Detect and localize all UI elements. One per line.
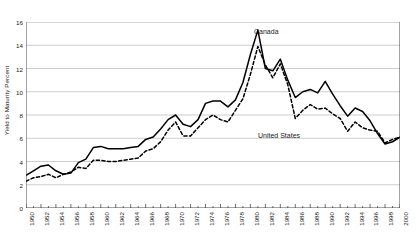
series-lines — [26, 30, 400, 181]
y-axis-ticklabel: 4 — [20, 158, 23, 165]
x-axis-ticklabel: 1950 — [28, 212, 35, 226]
y-axis-title-text: Yield to Maturity Percent — [4, 65, 11, 135]
x-axis-ticklabel: 1982 — [268, 212, 275, 226]
y-axis-ticklabel: 2 — [20, 181, 23, 188]
x-axis-ticklabel: 1988 — [313, 212, 320, 226]
x-axis-ticklabel: 1962 — [118, 212, 125, 226]
chart-container: Yield to Maturity Percent 0246810121416 … — [0, 0, 419, 240]
x-axis-ticklabel: 1972 — [193, 212, 200, 226]
y-axis-ticklabel: 12 — [16, 65, 23, 72]
x-axis-ticklabel: 1964 — [133, 212, 140, 226]
x-axis-ticklabel: 1986 — [298, 212, 305, 226]
y-axis-title: Yield to Maturity Percent — [0, 0, 14, 200]
x-axis-ticklabel: 1990 — [328, 212, 335, 226]
x-axis-ticklabel: 1960 — [103, 212, 110, 226]
plot-area: 0246810121416 19501952195419561958196019… — [26, 22, 400, 208]
y-axis-ticklabel: 8 — [20, 112, 23, 119]
x-axis-ticklabel: 1992 — [343, 212, 350, 226]
y-axis-ticklabel: 10 — [16, 88, 23, 95]
x-axis-ticklabel: 1998 — [387, 212, 394, 226]
x-axis-ticklabel: 1996 — [372, 212, 379, 226]
x-axis-ticklabel: 1968 — [163, 212, 170, 226]
x-axis-ticklabel: 1980 — [253, 212, 260, 226]
x-axis-ticklabel: 1966 — [148, 212, 155, 226]
y-axis-ticklabel: 6 — [20, 135, 23, 142]
y-axis-ticklabel: 0 — [20, 205, 23, 212]
x-axis-ticklabel: 1970 — [178, 212, 185, 226]
x-axis-ticklabel: 1952 — [43, 212, 50, 226]
y-axis-ticklabel: 14 — [16, 42, 23, 49]
series-line-canada — [26, 30, 400, 175]
x-axis-ticklabel: 1954 — [58, 212, 65, 226]
x-axis-tickmarks — [26, 204, 400, 208]
chart-svg — [26, 22, 400, 208]
series-label-united-states: United States — [258, 132, 300, 139]
x-axis-ticklabel: 1984 — [283, 212, 290, 226]
y-axis-ticklabel: 16 — [16, 19, 23, 26]
x-axis-ticklabel: 1956 — [73, 212, 80, 226]
x-axis-ticklabel: 2000 — [402, 212, 409, 226]
x-axis-ticklabel: 1974 — [208, 212, 215, 226]
x-axis-ticklabel: 1976 — [223, 212, 230, 226]
x-axis-ticklabel: 1958 — [88, 212, 95, 226]
x-axis-ticklabel: 1978 — [238, 212, 245, 226]
series-label-canada: Canada — [254, 28, 279, 35]
x-axis-ticklabel: 1994 — [358, 212, 365, 226]
